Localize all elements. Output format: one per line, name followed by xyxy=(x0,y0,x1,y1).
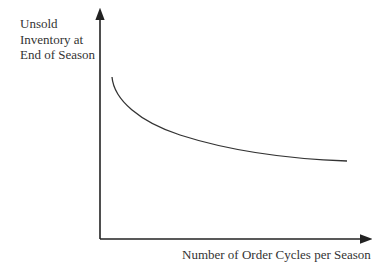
inventory-curve xyxy=(112,77,347,161)
y-axis-label: Unsold Inventory at End of Season xyxy=(20,16,100,63)
y-label-line-3: End of Season xyxy=(20,47,100,63)
y-label-line-2: Inventory at xyxy=(20,32,100,48)
x-axis-label: Number of Order Cycles per Season xyxy=(182,247,371,263)
y-label-line-1: Unsold xyxy=(20,16,100,32)
